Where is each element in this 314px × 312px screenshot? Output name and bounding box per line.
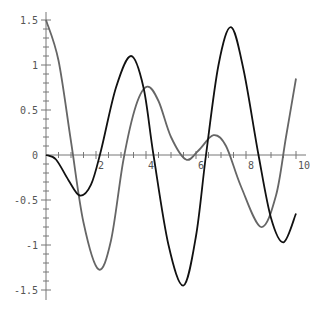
y-tick-label: 0 [32, 150, 38, 161]
y-tick-label: -1.5 [14, 285, 38, 296]
y-tick-label: 1 [32, 60, 38, 71]
x-tick-label: 10 [298, 160, 310, 171]
gray-curve [46, 20, 296, 270]
x-tick-label: 4 [148, 160, 154, 171]
y-tick-label: 1.5 [20, 15, 38, 26]
y-tick-label: 0.5 [20, 105, 38, 116]
y-tick-label: -0.5 [14, 195, 38, 206]
y-tick-label: -1 [26, 240, 38, 251]
plot-area: 2468101.510.50-0.5-1-1.5 [0, 0, 314, 312]
x-tick-label: 8 [248, 160, 254, 171]
axes [41, 12, 306, 300]
chart: 2468101.510.50-0.5-1-1.5 [0, 0, 314, 312]
x-tick-label: 6 [198, 160, 204, 171]
